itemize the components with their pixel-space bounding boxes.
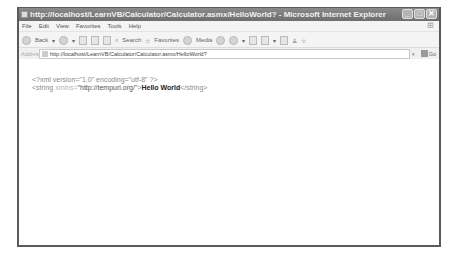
browser-window: http://localhost/LearnVB/Calculator/Calc…	[17, 7, 441, 247]
string-close-tag: </string>	[180, 84, 207, 91]
xml-declaration: <?xml version="1.0" encoding="utf-8" ?>	[32, 76, 439, 84]
home-icon[interactable]	[103, 36, 111, 45]
menu-file[interactable]: File	[22, 21, 32, 31]
forward-dropdown-icon[interactable]: ▾	[72, 37, 75, 44]
address-label: Address	[19, 51, 39, 57]
xml-string-element: <string xmlns="http://tempuri.org/">Hell…	[32, 84, 439, 92]
forward-arrow-icon[interactable]	[59, 36, 68, 45]
window-title: http://localhost/LearnVB/Calculator/Calc…	[30, 10, 386, 19]
address-dropdown-icon[interactable]: ▾	[410, 51, 418, 57]
windows-logo-icon: ⊞	[427, 22, 435, 30]
maximize-button[interactable]: □	[414, 9, 425, 19]
go-button[interactable]: Go	[418, 50, 439, 57]
ie-app-icon	[21, 11, 28, 18]
mail-dropdown-icon[interactable]: ▾	[242, 37, 245, 44]
edit-dropdown-icon[interactable]: ▾	[273, 37, 276, 44]
media-button[interactable]: Media	[196, 37, 212, 43]
edit-icon[interactable]	[261, 36, 269, 45]
xmlns-value: "http://tempuri.org/"	[78, 84, 138, 91]
title-bar[interactable]: http://localhost/LearnVB/Calculator/Calc…	[19, 8, 439, 21]
discuss-icon[interactable]	[280, 36, 288, 45]
go-arrow-icon	[421, 50, 428, 57]
window-controls: _ □ ✕	[402, 9, 437, 19]
menu-view[interactable]: View	[56, 21, 69, 31]
menu-favorites[interactable]: Favorites	[76, 21, 101, 31]
search-button[interactable]: Search	[122, 37, 141, 43]
page-icon	[42, 51, 48, 57]
menu-tools[interactable]: Tools	[108, 21, 122, 31]
back-arrow-icon[interactable]	[22, 36, 31, 45]
search-icon[interactable]: ⌕	[115, 37, 118, 44]
research-icon[interactable]: ♧	[301, 37, 306, 44]
mail-icon[interactable]	[229, 36, 238, 45]
menu-help[interactable]: Help	[129, 21, 141, 31]
favorites-button[interactable]: Favorites	[154, 37, 179, 43]
close-button[interactable]: ✕	[426, 9, 437, 19]
standard-toolbar: Back ▾ ▾ ⌕ Search ☆ Favorites Media ▾ ▾ …	[19, 31, 439, 48]
favorites-star-icon[interactable]: ☆	[145, 37, 150, 44]
media-icon[interactable]	[183, 36, 192, 45]
hello-world-value: Hello World	[141, 84, 180, 91]
go-label: Go	[429, 51, 436, 57]
messenger-icon[interactable]: ♙	[292, 37, 297, 44]
print-icon[interactable]	[249, 36, 257, 45]
address-url[interactable]: http://localhost/LearnVB/Calculator/Calc…	[50, 50, 207, 58]
page-content: <?xml version="1.0" encoding="utf-8" ?> …	[19, 59, 439, 245]
minimize-button[interactable]: _	[402, 9, 413, 19]
xmlns-attribute: xmlns=	[53, 84, 77, 91]
menu-edit[interactable]: Edit	[39, 21, 49, 31]
refresh-icon[interactable]	[91, 36, 99, 45]
back-dropdown-icon[interactable]: ▾	[52, 37, 55, 44]
address-input[interactable]: http://localhost/LearnVB/Calculator/Calc…	[39, 49, 410, 59]
history-icon[interactable]	[216, 36, 225, 45]
stop-icon[interactable]	[79, 36, 87, 45]
back-button-label[interactable]: Back	[35, 37, 48, 43]
string-open-tag: <string	[32, 84, 53, 91]
menu-bar: File Edit View Favorites Tools Help ⊞	[19, 21, 439, 31]
